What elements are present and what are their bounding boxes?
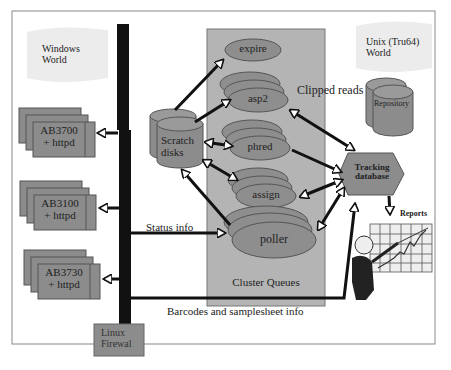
instrument-ab3700-label: AB3700 + httpd bbox=[33, 125, 85, 148]
instrument-service: + httpd bbox=[33, 137, 85, 149]
windows-world-line1: Windows bbox=[42, 44, 80, 55]
instrument-ab3730-label: AB3730 + httpd bbox=[38, 267, 90, 290]
instrument-name: AB3730 bbox=[38, 267, 90, 279]
scratch-disks-label: Scratch disks bbox=[161, 135, 194, 158]
instrument-ab3100-label: AB3100 + httpd bbox=[34, 198, 86, 221]
queue-phred-label: phred bbox=[235, 141, 285, 153]
repository-label: Repository bbox=[374, 100, 409, 108]
instrument-name: AB3700 bbox=[33, 125, 85, 137]
queue-poller-label: poller bbox=[249, 233, 299, 246]
instrument-service: + httpd bbox=[34, 210, 86, 222]
queue-asp2-label: asp2 bbox=[233, 93, 283, 105]
firewall-bar-top bbox=[117, 24, 129, 130]
scratch-line2: disks bbox=[161, 147, 194, 159]
queue-assign-label: assign bbox=[241, 189, 291, 201]
cluster-queues-label: Cluster Queues bbox=[207, 277, 325, 289]
status-info-label: Status info bbox=[146, 222, 193, 234]
firewall-line2: Firewal bbox=[101, 339, 132, 350]
scratch-line1: Scratch bbox=[161, 135, 194, 147]
tracking-line2: database bbox=[344, 172, 400, 181]
windows-world-line2: World bbox=[42, 55, 80, 66]
windows-world-label: Windows World bbox=[42, 44, 80, 65]
reports-label: Reports bbox=[400, 210, 427, 218]
tracking-database-label: Tracking database bbox=[344, 163, 400, 182]
cluster-queues-area bbox=[207, 29, 325, 306]
clipped-reads-label: Clipped reads bbox=[297, 84, 363, 97]
firewall-bar-bottom bbox=[119, 130, 131, 328]
instrument-service: + httpd bbox=[38, 279, 90, 291]
barcodes-label: Barcodes and samplesheet info bbox=[167, 306, 304, 318]
unix-world-line2: World bbox=[366, 48, 419, 59]
linux-firewall-label: Linux Firewal bbox=[101, 328, 132, 349]
unix-world-label: Unix (Tru64) World bbox=[366, 37, 419, 58]
unix-world-line1: Unix (Tru64) bbox=[366, 37, 419, 48]
queue-expire-label: expire bbox=[228, 43, 278, 55]
firewall-line1: Linux bbox=[101, 328, 132, 339]
instrument-name: AB3100 bbox=[34, 198, 86, 210]
